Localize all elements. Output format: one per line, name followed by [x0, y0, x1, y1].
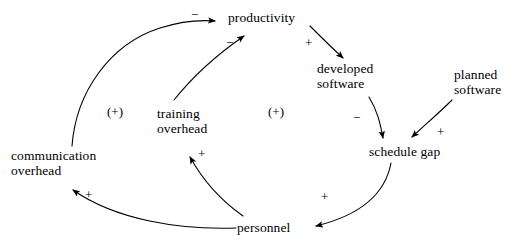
link-planned-software-to-schedule-gap	[412, 100, 452, 137]
loop-marker-right: (+)	[268, 105, 284, 118]
node-training-overhead: training overhead	[157, 106, 207, 136]
sign-developed-software-to-schedule-gap: −	[353, 111, 360, 124]
sign-planned-software-to-schedule-gap: +	[437, 125, 444, 138]
link-personnel-to-training-overhead	[190, 157, 243, 216]
sign-communication-overhead-to-productivity: −	[191, 8, 198, 21]
causal-loop-diagram: productivity developed software planned …	[0, 0, 524, 243]
node-developed-software: developed software	[317, 61, 373, 91]
diagram-canvas	[0, 0, 524, 243]
node-personnel: personnel	[237, 220, 290, 235]
link-productivity-to-developed-software	[310, 26, 343, 58]
link-developed-software-to-schedule-gap	[369, 97, 383, 138]
sign-training-overhead-to-productivity: −	[226, 36, 233, 49]
sign-schedule-gap-to-personnel: +	[321, 190, 328, 203]
sign-productivity-to-developed-software: +	[305, 36, 312, 49]
sign-personnel-to-training-overhead: +	[198, 147, 205, 160]
link-training-overhead-to-productivity	[174, 36, 244, 100]
node-communication-overhead: communication overhead	[11, 148, 96, 178]
link-personnel-to-communication-overhead	[73, 190, 236, 228]
node-planned-software: planned software	[454, 67, 501, 97]
node-productivity: productivity	[228, 10, 295, 25]
sign-personnel-to-communication-overhead: +	[85, 188, 92, 201]
loop-marker-left: (+)	[107, 105, 123, 118]
node-schedule-gap: schedule gap	[369, 144, 440, 159]
